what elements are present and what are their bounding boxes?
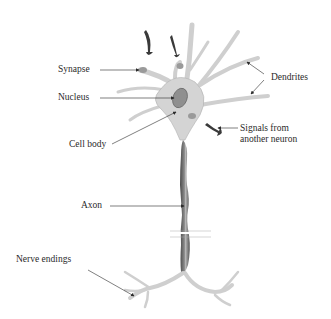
label-nerve-endings: Nerve endings <box>16 254 71 265</box>
neuron-diagram: Synapse Nucleus Cell body Dendrites Sign… <box>0 0 331 319</box>
label-signals-line1: Signals from <box>240 123 289 134</box>
neuron-illustration <box>0 0 331 319</box>
label-synapse: Synapse <box>58 64 90 75</box>
cell-body <box>155 78 204 141</box>
label-axon: Axon <box>81 200 102 211</box>
synapse-bulb <box>139 67 147 73</box>
nerve-endings <box>125 272 238 307</box>
label-cell-body: Cell body <box>69 139 106 150</box>
label-signals-line2: another neuron <box>240 134 297 145</box>
label-dendrites: Dendrites <box>271 72 308 83</box>
label-nucleus: Nucleus <box>58 92 89 103</box>
